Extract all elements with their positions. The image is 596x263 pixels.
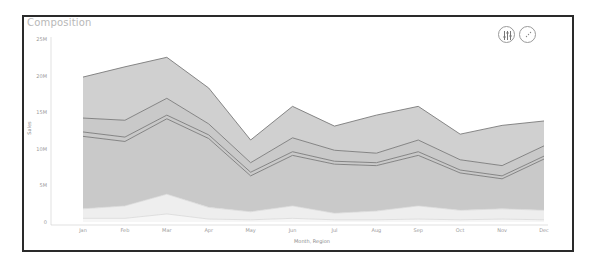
x-tick-label: Feb [120, 227, 129, 233]
x-tick-label: Jul [330, 227, 337, 233]
x-tick-label: Oct [456, 227, 465, 233]
stacked-area-chart: 05M10M15M20M25MJanFebMarAprMayJunJulAugS… [24, 17, 572, 250]
x-tick-label: Sep [414, 227, 423, 234]
y-tick-label: 0 [44, 219, 47, 225]
x-tick-label: May [245, 227, 255, 234]
y-axis-title: Sales [26, 121, 32, 135]
y-tick-label: 10M [36, 146, 47, 152]
x-tick-label: Apr [204, 227, 214, 234]
x-axis-title: Month, Region [294, 238, 330, 245]
x-tick-label: Jun [288, 227, 297, 233]
x-tick-label: Dec [539, 227, 549, 233]
x-tick-label: Aug [371, 227, 381, 234]
y-tick-label: 25M [36, 36, 47, 42]
x-tick-label: Mar [162, 227, 172, 233]
x-tick-label: Nov [497, 227, 507, 233]
chart-card: Composition 05M10M15M20M25MJanFebMarAprM… [22, 15, 574, 252]
y-tick-label: 15M [36, 109, 47, 115]
y-tick-label: 20M [36, 73, 47, 79]
y-tick-label: 5M [40, 182, 48, 188]
x-tick-label: Jan [78, 227, 87, 233]
